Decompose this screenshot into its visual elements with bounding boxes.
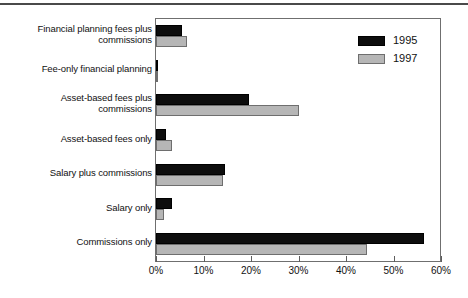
bar-1997-2 <box>156 105 299 116</box>
x-axis-tick-label: 30% <box>279 265 319 276</box>
category-label-line: Fee-only financial planning <box>6 63 152 74</box>
bar-1997-5 <box>156 209 164 220</box>
legend-label-1995: 1995 <box>393 34 417 46</box>
x-axis-tick-label: 60% <box>421 265 461 276</box>
category-axis-labels: Financial planning fees pluscommissionsF… <box>6 18 152 262</box>
category-label: Financial planning fees pluscommissions <box>6 23 152 45</box>
bar-1995-5 <box>156 198 172 209</box>
legend-item-1995: 1995 <box>358 34 436 49</box>
category-label: Fee-only financial planning <box>6 63 152 74</box>
category-label-line: Salary plus commissions <box>6 167 152 178</box>
top-divider-rule <box>0 3 468 5</box>
x-axis-tick-label: 10% <box>184 265 224 276</box>
bar-1995-6 <box>156 233 424 244</box>
bar-1997-6 <box>156 244 367 255</box>
category-label-line: Financial planning fees plus <box>6 23 152 34</box>
category-label-line: Asset-based fees plus <box>6 92 152 103</box>
category-label: Asset-based fees pluscommissions <box>6 92 152 114</box>
category-label-line: Salary only <box>6 202 152 213</box>
x-axis-tick <box>204 256 205 262</box>
x-axis-tick-label: 50% <box>374 265 414 276</box>
category-label: Salary only <box>6 202 152 213</box>
legend-swatch-1997 <box>358 54 385 64</box>
category-label: Asset-based fees only <box>6 133 152 144</box>
chart-legend: 1995 1997 <box>358 34 436 70</box>
bar-1997-0 <box>156 36 187 47</box>
x-axis-tick-label: 0% <box>136 265 176 276</box>
bar-chart: Financial planning fees pluscommissionsF… <box>0 0 468 298</box>
x-axis-tick <box>346 256 347 262</box>
bar-1995-0 <box>156 25 182 36</box>
bar-1995-3 <box>156 129 166 140</box>
x-axis-tick <box>441 256 442 262</box>
x-axis-tick-label: 20% <box>231 265 271 276</box>
legend-label-1997: 1997 <box>393 52 417 64</box>
x-axis-tick <box>251 256 252 262</box>
category-label: Salary plus commissions <box>6 167 152 178</box>
bar-1997-1 <box>156 71 158 82</box>
x-axis-tick <box>394 256 395 262</box>
bar-1995-4 <box>156 164 225 175</box>
x-axis-tick <box>156 256 157 262</box>
category-label-line: Asset-based fees only <box>6 133 152 144</box>
bar-1997-3 <box>156 140 172 151</box>
bar-1997-4 <box>156 175 223 186</box>
legend-swatch-1995 <box>358 36 385 46</box>
bar-1995-1 <box>156 60 158 71</box>
category-label: Commissions only <box>6 236 152 247</box>
legend-item-1997: 1997 <box>358 52 436 67</box>
category-label-line: commissions <box>6 34 152 45</box>
bar-1995-2 <box>156 94 249 105</box>
category-label-line: commissions <box>6 103 152 114</box>
category-label-line: Commissions only <box>6 236 152 247</box>
x-axis-tick <box>299 256 300 262</box>
x-axis-tick-label: 40% <box>326 265 366 276</box>
